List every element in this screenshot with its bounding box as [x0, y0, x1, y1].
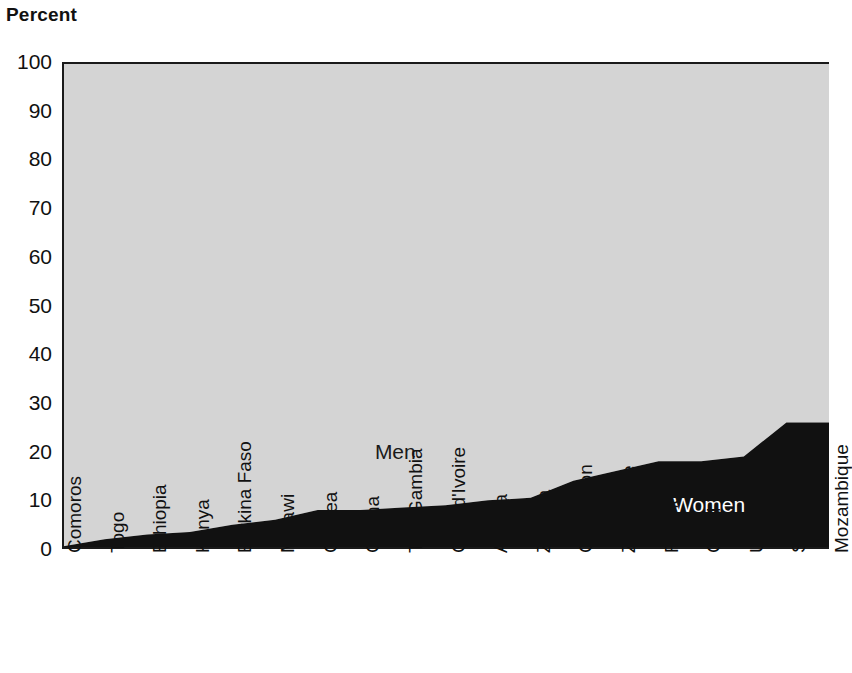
y-tick-label: 100	[6, 51, 52, 72]
x-tick-label: Comoros	[65, 476, 84, 553]
x-tick-label: The Gambia	[406, 448, 425, 553]
y-tick-label: 80	[6, 148, 52, 169]
x-tick-label: Zimbabwe	[619, 465, 638, 553]
y-tick-label: 0	[6, 538, 52, 559]
x-tick-label: Ethiopia	[150, 484, 169, 553]
x-tick-label: Côte d'Ivoire	[449, 447, 468, 553]
x-tick-label: Guinea	[321, 492, 340, 553]
y-tick-label: 50	[6, 295, 52, 316]
x-tick-label: South Africa	[789, 451, 808, 553]
y-axis-tick-labels: 0102030405060708090100	[0, 0, 52, 673]
y-tick-label: 70	[6, 197, 52, 218]
x-tick-label: Rwanda	[662, 483, 681, 553]
x-axis-tick-labels: ComorosTogoEthiopiaKenyaBurkina FasoMala…	[62, 553, 834, 673]
y-tick-label: 60	[6, 246, 52, 267]
stacked-area-plot	[62, 62, 829, 549]
x-tick-label: Chad	[704, 508, 723, 553]
plot-area: Men Women	[62, 62, 829, 549]
y-tick-label: 40	[6, 343, 52, 364]
y-tick-label: 90	[6, 100, 52, 121]
x-tick-label: Malawi	[278, 494, 297, 553]
y-tick-label: 30	[6, 392, 52, 413]
x-tick-label: Zambia	[534, 490, 553, 553]
y-tick-label: 20	[6, 441, 52, 462]
x-tick-label: Uganda	[747, 486, 766, 553]
x-tick-label: Burkina Faso	[235, 441, 254, 553]
x-tick-label: Angola	[491, 494, 510, 553]
x-tick-label: Cameroon	[576, 464, 595, 553]
x-tick-label: Kenya	[193, 499, 212, 553]
y-tick-label: 10	[6, 489, 52, 510]
x-tick-label: Mozambique	[832, 444, 851, 553]
x-tick-label: Ghana	[363, 496, 382, 553]
x-tick-label: Togo	[108, 512, 127, 553]
